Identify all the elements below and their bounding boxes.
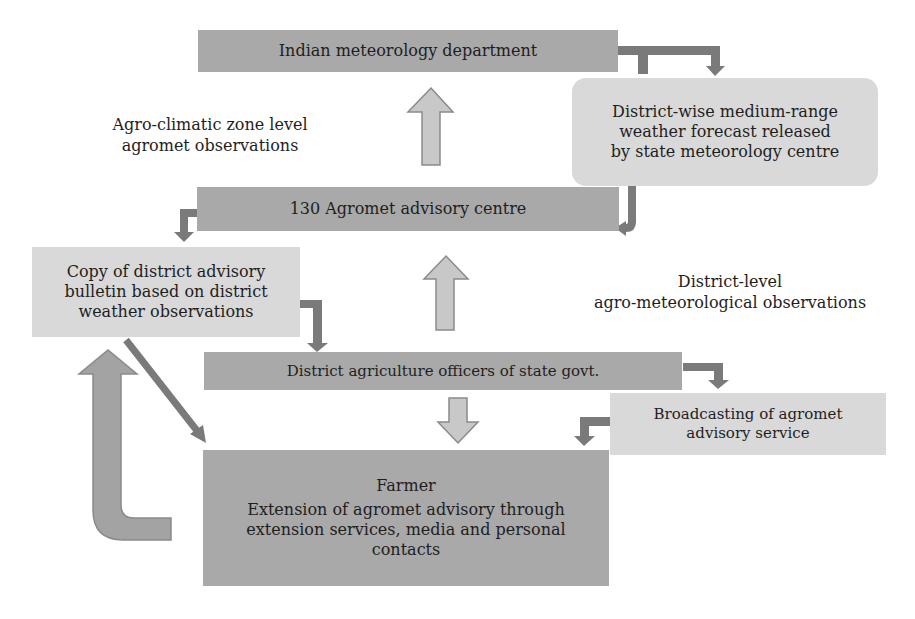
node-text: District agriculture officers of state g… [287,362,600,381]
farmer-title: Farmer [376,476,436,496]
connector-bulletin-to-dao [300,300,328,352]
connector-aac-to-bulletin [174,209,198,242]
node-text-line: Extension of agromet advisory through [247,500,565,520]
label-line: agromet observations [90,136,330,157]
label-line: agro-meteorological observations [560,293,900,314]
node-text-line: extension services, media and personal [246,520,565,540]
node-text-line: contacts [372,540,440,560]
node-district-agriculture-officers: District agriculture officers of state g… [204,352,682,390]
label-district-level-observations: District-level agro-meteorological obser… [560,272,900,314]
node-text-line: by state meteorology centre [611,142,839,162]
label-line: Agro-climatic zone level [90,115,330,136]
node-text-line: Copy of district advisory [67,262,266,282]
node-agromet-advisory-centre: 130 Agromet advisory centre [197,187,619,231]
node-text: Indian meteorology department [279,41,537,61]
node-state-meteorology-centre: District-wise medium-range weather forec… [572,78,878,186]
node-text-line: weather observations [78,302,253,322]
label-agro-climatic-observations: Agro-climatic zone level agromet observa… [90,115,330,157]
node-text-line: weather forecast released [619,122,831,142]
hollow-arrow-dao-to-farmer [438,398,478,443]
hollow-arrow-aac-to-imd [408,88,453,165]
node-text-line: District-wise medium-range [612,102,838,122]
label-line: District-level [560,272,900,293]
connector-bulletin-to-farmer [126,340,206,443]
connector-dao-to-broadcast [683,363,729,389]
hollow-arrow-dao-to-aac [424,256,468,330]
node-indian-meteorology-department: Indian meteorology department [198,30,618,72]
connector-broadcast-to-farmer [574,417,610,446]
node-farmer: Farmer Extension of agromet advisory thr… [203,450,609,586]
node-text-line: Broadcasting of agromet [654,405,843,424]
node-text: 130 Agromet advisory centre [290,199,527,219]
node-text-line: bulletin based on district [64,282,267,302]
node-broadcasting-agromet-advisory: Broadcasting of agromet advisory service [610,393,886,455]
node-district-advisory-bulletin: Copy of district advisory bulletin based… [32,247,300,337]
node-text-line: advisory service [686,424,809,443]
connector-imd-to-state-centre [618,46,725,76]
